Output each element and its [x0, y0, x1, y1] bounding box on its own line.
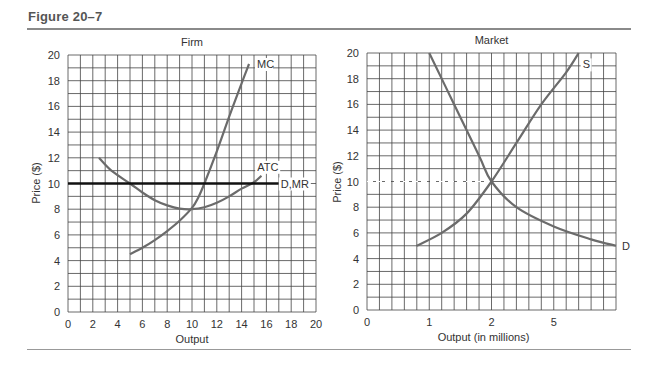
market-y-axis-label: Price ($) [331, 161, 343, 203]
market-y-tick-label: 4 [353, 253, 359, 265]
market-y-tick-label: 8 [353, 201, 359, 213]
firm-y-tick-label: 8 [54, 203, 60, 215]
market-y-tick-label: 0 [353, 304, 359, 316]
figure-charts: 02468101214161820Firm02468101214161820Ou… [0, 0, 658, 373]
firm-x-tick-label: 20 [310, 318, 322, 330]
firm-x-tick-label: 14 [235, 318, 247, 330]
market-y-tick-label: 2 [353, 278, 359, 290]
market-y-tick-label: 20 [347, 47, 359, 59]
dmr-label: D,MR [281, 178, 309, 190]
firm-x-tick-label: 12 [211, 318, 223, 330]
firm-y-tick-label: 2 [54, 280, 60, 292]
demand-label: D [622, 240, 630, 252]
firm-y-tick-label: 0 [54, 306, 60, 318]
market-y-tick-label: 18 [347, 73, 359, 85]
market-x-tick-label: 2 [488, 316, 494, 328]
market-y-tick-label: 6 [353, 227, 359, 239]
market-x-tick-label: 0 [364, 316, 370, 328]
market-y-tick-label: 10 [347, 176, 359, 188]
mc-curve [130, 64, 249, 254]
market-x-tick-label: 1 [426, 316, 432, 328]
firm-y-tick-label: 6 [54, 229, 60, 241]
firm-y-tick-label: 16 [48, 100, 60, 112]
firm-y-tick-label: 12 [48, 152, 60, 164]
firm-x-axis-label: Output [175, 333, 208, 345]
firm-x-tick-label: 10 [186, 318, 198, 330]
mc-label: MC [257, 58, 274, 70]
firm-x-tick-label: 6 [139, 318, 145, 330]
demand-curve [429, 53, 616, 246]
firm-x-tick-label: 8 [164, 318, 170, 330]
firm-y-tick-label: 10 [48, 178, 60, 190]
firm-x-tick-label: 16 [260, 318, 272, 330]
firm-y-tick-label: 14 [48, 126, 60, 138]
firm-y-tick-label: 18 [48, 75, 60, 87]
market-y-tick-label: 12 [347, 150, 359, 162]
firm-x-tick-label: 18 [285, 318, 297, 330]
market-y-tick-label: 14 [347, 124, 359, 136]
firm-x-tick-label: 2 [90, 318, 96, 330]
market-title: Market [475, 34, 509, 46]
firm-title: Firm [181, 36, 203, 48]
firm-x-tick-label: 4 [115, 318, 121, 330]
firm-y-tick-label: 20 [48, 49, 60, 61]
firm-x-tick-label: 0 [65, 318, 71, 330]
market-x-axis-label: Output (in millions) [438, 331, 530, 343]
supply-label: S [583, 58, 590, 70]
firm-y-tick-label: 4 [54, 255, 60, 267]
market-y-tick-label: 16 [347, 98, 359, 110]
firm-y-axis-label: Price ($) [30, 162, 42, 204]
market-x-tick-label: 5 [551, 316, 557, 328]
atc-label: ATC [257, 161, 278, 173]
supply-curve [417, 53, 579, 246]
